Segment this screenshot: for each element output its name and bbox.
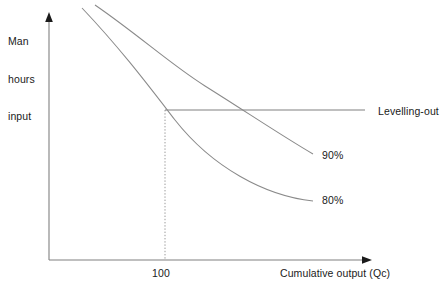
levelling-out-label: Levelling-out <box>378 105 439 118</box>
y-axis-arrowhead-icon <box>45 12 53 22</box>
x-axis-arrowhead-icon <box>362 256 372 264</box>
y-axis-title-line-3: input <box>8 110 35 123</box>
x-axis-tick-label-100: 100 <box>152 267 170 280</box>
y-axis-title: Man hours input <box>8 10 35 148</box>
curve-80-percent <box>82 8 313 201</box>
curve-80-percent-label: 80% <box>322 194 343 207</box>
curve-90-percent <box>95 5 313 154</box>
chart-plot-area <box>0 0 443 289</box>
y-axis-title-line-2: hours <box>8 73 35 86</box>
y-axis-title-line-1: Man <box>8 35 35 48</box>
learning-curve-figure: Man hours input Cumulative output (Qc) 1… <box>0 0 443 289</box>
x-axis-title: Cumulative output (Qc) <box>280 267 390 280</box>
curve-90-percent-label: 90% <box>322 149 343 162</box>
